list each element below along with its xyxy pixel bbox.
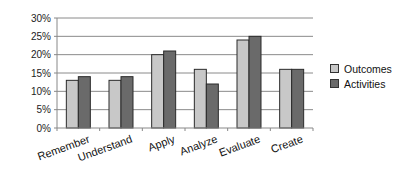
bar-activities	[249, 36, 261, 128]
bar-activities	[164, 51, 176, 128]
bar-outcomes	[66, 80, 78, 128]
bar-outcomes	[280, 69, 292, 128]
y-tick-label: 0%	[37, 123, 52, 134]
activities-swatch-icon	[330, 79, 339, 88]
bar-outcomes	[109, 80, 121, 128]
x-tick-label: Apply	[146, 132, 176, 153]
legend-item-activities: Activities	[330, 76, 392, 91]
legend: Outcomes Activities	[330, 61, 392, 91]
legend-item-outcomes: Outcomes	[330, 61, 392, 76]
x-tick-label: Evaluate	[217, 133, 261, 159]
legend-label-activities: Activities	[344, 78, 385, 90]
y-tick-label: 15%	[31, 68, 51, 79]
bars	[66, 36, 303, 128]
bar-activities	[121, 77, 133, 128]
outcomes-swatch-icon	[330, 64, 339, 73]
y-tick-label: 20%	[31, 49, 51, 60]
bar-outcomes	[237, 40, 249, 128]
x-tick-label: Create	[269, 133, 304, 156]
legend-label-outcomes: Outcomes	[344, 63, 392, 75]
y-tick-label: 30%	[31, 13, 51, 24]
bar-outcomes	[194, 69, 206, 128]
y-tick-label: 5%	[37, 104, 52, 115]
bar-outcomes	[152, 55, 164, 128]
bar-activities	[78, 77, 90, 128]
bar-activities	[206, 84, 218, 128]
y-tick-label: 10%	[31, 86, 51, 97]
x-tick-label: Analyze	[178, 133, 219, 158]
bar-activities	[292, 69, 304, 128]
bar-chart: 0%5%10%15%20%25%30%RememberUnderstandApp…	[0, 0, 407, 187]
y-tick-label: 25%	[31, 31, 51, 42]
gridlines	[57, 18, 313, 110]
